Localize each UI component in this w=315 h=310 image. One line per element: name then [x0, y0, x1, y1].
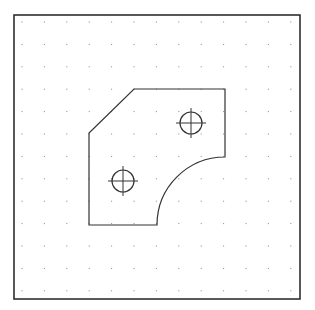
grid-dot: [111, 156, 112, 157]
hole-markers: [108, 108, 206, 196]
grid-dot: [268, 89, 269, 90]
grid-dot: [156, 290, 157, 291]
grid-dot: [156, 22, 157, 23]
grid-dot: [111, 223, 112, 224]
grid-dot: [290, 134, 291, 135]
grid-dot: [66, 134, 67, 135]
grid-dot: [201, 290, 202, 291]
grid-dot: [22, 246, 23, 247]
grid-dot: [111, 201, 112, 202]
grid-dot: [22, 156, 23, 157]
grid-dot: [22, 201, 23, 202]
grid-dot: [268, 156, 269, 157]
grid-dot: [134, 44, 135, 45]
grid-dot: [134, 22, 135, 23]
grid-dot: [66, 223, 67, 224]
grid-dot: [201, 22, 202, 23]
grid-dot: [156, 246, 157, 247]
grid-dot: [89, 44, 90, 45]
grid-dot: [111, 290, 112, 291]
grid-dot: [223, 22, 224, 23]
grid-dot: [22, 66, 23, 67]
grid-dot: [290, 290, 291, 291]
grid-dot: [66, 290, 67, 291]
grid-dot: [290, 89, 291, 90]
grid-dot: [246, 66, 247, 67]
grid-dot: [111, 89, 112, 90]
grid-dot: [44, 178, 45, 179]
grid-dot: [268, 201, 269, 202]
grid-dot: [156, 66, 157, 67]
grid-dot: [66, 89, 67, 90]
grid-dot: [156, 111, 157, 112]
grid-dot: [178, 223, 179, 224]
part-outline[interactable]: [89, 89, 225, 225]
grid-dot: [134, 156, 135, 157]
grid-dot: [134, 134, 135, 135]
grid-dot: [44, 201, 45, 202]
grid-dot: [89, 22, 90, 23]
grid-dot: [246, 156, 247, 157]
grid-dot: [223, 246, 224, 247]
grid-dot: [22, 223, 23, 224]
grid-dot: [268, 290, 269, 291]
grid-dot: [246, 178, 247, 179]
grid-dot: [44, 66, 45, 67]
grid-dot: [223, 201, 224, 202]
grid-dot: [290, 22, 291, 23]
grid-dot: [246, 111, 247, 112]
grid-dot: [223, 268, 224, 269]
grid-dot: [201, 66, 202, 67]
grid-dot: [66, 44, 67, 45]
grid-dot: [178, 111, 179, 112]
grid-dot: [290, 44, 291, 45]
grid-dot: [44, 156, 45, 157]
grid-dot: [66, 178, 67, 179]
grid-dot: [44, 22, 45, 23]
grid-dot: [134, 66, 135, 67]
hole-crosshair-icon[interactable]: [108, 166, 138, 196]
grid-dot: [246, 22, 247, 23]
grid-dot: [89, 246, 90, 247]
grid-dot: [246, 201, 247, 202]
grid-dot: [156, 156, 157, 157]
grid-dot: [178, 66, 179, 67]
grid-dot: [66, 22, 67, 23]
grid-dot: [223, 134, 224, 135]
grid-dot: [268, 223, 269, 224]
grid-dot: [201, 134, 202, 135]
grid-dot: [22, 44, 23, 45]
grid-dot: [178, 134, 179, 135]
grid-dot: [66, 156, 67, 157]
grid-dot: [223, 66, 224, 67]
grid-dot: [201, 201, 202, 202]
grid-dot: [290, 178, 291, 179]
grid-dot: [290, 223, 291, 224]
grid-dot: [268, 246, 269, 247]
grid-dot: [44, 89, 45, 90]
grid-dot: [268, 44, 269, 45]
grid-dot: [44, 290, 45, 291]
grid-dot: [268, 22, 269, 23]
grid-dot: [290, 201, 291, 202]
grid-dot: [89, 268, 90, 269]
grid-dot: [44, 246, 45, 247]
grid-dot: [201, 156, 202, 157]
cad-drawing-canvas[interactable]: [0, 0, 315, 310]
grid-dot: [246, 290, 247, 291]
grid-dot: [134, 246, 135, 247]
grid-dot: [178, 290, 179, 291]
grid-dot: [290, 66, 291, 67]
grid-dot: [268, 134, 269, 135]
grid-dot: [111, 44, 112, 45]
grid-dot: [66, 201, 67, 202]
grid-dot: [22, 89, 23, 90]
grid-dot: [178, 268, 179, 269]
grid-dot: [201, 246, 202, 247]
grid-dot: [66, 246, 67, 247]
grid-dot: [156, 268, 157, 269]
grid-dot: [134, 201, 135, 202]
grid-dot: [178, 44, 179, 45]
grid-dot: [223, 178, 224, 179]
grid-dot: [111, 22, 112, 23]
